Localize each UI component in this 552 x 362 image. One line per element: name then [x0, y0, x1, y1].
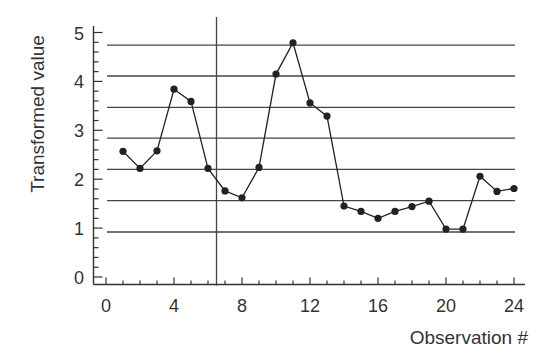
- data-point-marker: [306, 99, 313, 106]
- data-point-marker: [459, 225, 466, 232]
- x-tick-label: 0: [101, 296, 111, 316]
- data-point-marker: [476, 173, 483, 180]
- y-tick-label: 2: [74, 170, 84, 190]
- data-point-marker: [170, 86, 177, 93]
- x-tick-label: 4: [169, 296, 179, 316]
- y-axis-title: Transformed value: [27, 35, 48, 193]
- data-point-marker: [374, 215, 381, 222]
- x-tick-label: 16: [368, 296, 388, 316]
- data-point-marker: [391, 208, 398, 215]
- data-series: [119, 39, 517, 233]
- x-tick-label: 12: [300, 296, 320, 316]
- line-chart: 01234504812162024 Transformed value Obse…: [0, 0, 552, 362]
- y-tick-label: 5: [74, 24, 84, 44]
- axes: [94, 26, 526, 285]
- data-point-marker: [119, 148, 126, 155]
- y-tick-label: 1: [74, 219, 84, 239]
- data-point-marker: [408, 203, 415, 210]
- data-point-marker: [204, 165, 211, 172]
- data-point-marker: [323, 113, 330, 120]
- x-tick-label: 20: [436, 296, 456, 316]
- data-point-marker: [340, 202, 347, 209]
- data-point-marker: [255, 164, 262, 171]
- data-point-marker: [442, 225, 449, 232]
- data-point-marker: [136, 165, 143, 172]
- data-point-marker: [238, 194, 245, 201]
- data-point-marker: [153, 147, 160, 154]
- x-tick-label: 8: [237, 296, 247, 316]
- data-point-marker: [510, 185, 517, 192]
- reference-lines: [107, 17, 515, 286]
- data-point-marker: [187, 98, 194, 105]
- x-tick-label: 24: [504, 296, 524, 316]
- data-point-marker: [425, 198, 432, 205]
- y-tick-label: 0: [74, 268, 84, 288]
- data-point-marker: [221, 187, 228, 194]
- data-point-marker: [289, 39, 296, 46]
- x-axis-title: Observation #: [410, 327, 529, 348]
- data-point-marker: [493, 188, 500, 195]
- y-tick-label: 3: [74, 121, 84, 141]
- data-point-marker: [357, 208, 364, 215]
- data-point-marker: [272, 70, 279, 77]
- y-tick-label: 4: [74, 72, 84, 92]
